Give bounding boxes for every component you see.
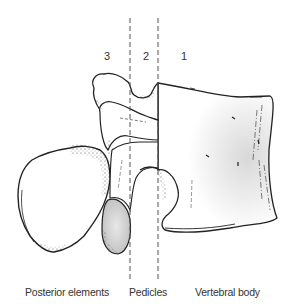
region-number-2: 2 — [143, 50, 149, 62]
inferior-facet-shape — [102, 199, 131, 254]
spinous-process-shape — [18, 146, 110, 252]
vertebral-body-shape — [158, 83, 277, 232]
region-number-1: 1 — [181, 50, 187, 62]
vertebra-drawing — [0, 0, 301, 306]
label-posterior-elements: Posterior elements — [25, 286, 109, 298]
label-pedicles: Pedicles — [129, 286, 167, 298]
vertebra-diagram: 3 2 1 Posterior elements Pedicles Verteb… — [0, 0, 301, 306]
label-vertebral-body: Vertebral body — [195, 286, 260, 298]
region-number-3: 3 — [104, 50, 110, 62]
